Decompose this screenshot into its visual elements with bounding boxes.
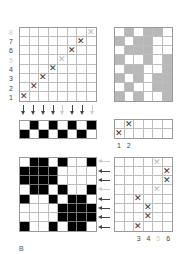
figure-label: B [19, 245, 24, 252]
grid-cell [153, 129, 163, 138]
grid-cell [39, 28, 49, 37]
grid-cell [87, 204, 97, 213]
grid-cell [20, 74, 30, 83]
grid-cell [87, 83, 97, 92]
grid-cell [134, 204, 144, 213]
grid-cell: ✕ [68, 46, 78, 55]
grid-cell: ✕ [125, 120, 135, 129]
grid-cell [87, 158, 97, 167]
grid-cell [163, 55, 173, 64]
grid-cell [115, 213, 125, 222]
grid-cell [87, 195, 97, 204]
grid-cell [77, 185, 87, 194]
grid-cell [58, 167, 68, 176]
grid-cell [49, 92, 59, 101]
grid-cell [49, 222, 59, 231]
grid-cell [153, 46, 163, 55]
grid-cell [144, 158, 154, 167]
grid-cell [153, 74, 163, 83]
grid-cell [153, 55, 163, 64]
grid-cell [58, 28, 68, 37]
grid-cell [125, 195, 135, 204]
grid-cell [58, 222, 68, 231]
grid-cell [39, 130, 49, 139]
grid-cell [163, 129, 173, 138]
threading-grid: ✕✕✕✕✕✕✕✕ [19, 27, 97, 102]
grid-cell [115, 37, 125, 46]
grid-cell [77, 46, 87, 55]
grid-cell [144, 176, 154, 185]
grid-cell [115, 222, 125, 231]
grid-cell: ✕ [20, 92, 30, 101]
grid-cell [87, 37, 97, 46]
column-label: 6 [166, 235, 170, 242]
grid-cell: ✕ [30, 83, 40, 92]
grid-cell [20, 176, 30, 185]
grid-cell [115, 65, 125, 74]
grid-cell [87, 185, 97, 194]
grid-cell [87, 74, 97, 83]
grid-cell [20, 28, 30, 37]
grid-cell [58, 74, 68, 83]
grid-cell [58, 92, 68, 101]
grid-cell [39, 176, 49, 185]
grid-cell [68, 130, 78, 139]
grid-cell [68, 74, 78, 83]
grid-cell: ✕ [87, 28, 97, 37]
grid-cell [20, 46, 30, 55]
grid-cell [68, 121, 78, 130]
grid-cell [163, 213, 173, 222]
grid-cell [134, 55, 144, 64]
grid-cell [58, 185, 68, 194]
grid-cell [153, 28, 163, 37]
grid-cell [134, 46, 144, 55]
grid-cell [30, 65, 40, 74]
grid-cell [125, 28, 135, 37]
grid-cell: ✕ [58, 55, 68, 64]
grid-cell [30, 176, 40, 185]
cross-mark-icon: ✕ [68, 46, 77, 54]
grid-cell [134, 83, 144, 92]
grid-cell [68, 167, 78, 176]
grid-cell [20, 195, 30, 204]
grid-cell [163, 65, 173, 74]
grid-cell [30, 213, 40, 222]
grid-cell [39, 121, 49, 130]
grid-cell [134, 28, 144, 37]
grid-cell [153, 195, 163, 204]
grid-cell [77, 83, 87, 92]
grid-cell [87, 213, 97, 222]
grid-cell [134, 167, 144, 176]
grid-cell [49, 185, 59, 194]
grid-cell [153, 167, 163, 176]
grid-cell [77, 121, 87, 130]
grid-cell [30, 46, 40, 55]
grid-cell [49, 158, 59, 167]
grid-cell [30, 28, 40, 37]
grid-cell [153, 222, 163, 231]
grid-cell [125, 222, 135, 231]
grid-cell [39, 213, 49, 222]
grid-cell: ✕ [39, 74, 49, 83]
grid-cell [163, 204, 173, 213]
grid-cell [125, 55, 135, 64]
grid-cell [39, 55, 49, 64]
grid-cell [49, 176, 59, 185]
grid-cell [87, 121, 97, 130]
grid-cell [144, 74, 154, 83]
grid-cell [77, 65, 87, 74]
grid-cell [125, 65, 135, 74]
grid-cell [115, 46, 125, 55]
grid-cell [49, 74, 59, 83]
cross-mark-icon: ✕ [77, 37, 86, 45]
grid-cell [115, 28, 125, 37]
grid-cell [49, 130, 59, 139]
grid-cell [115, 167, 125, 176]
grid-cell [20, 37, 30, 46]
grid-cell [58, 204, 68, 213]
grid-cell [30, 167, 40, 176]
grid-cell [58, 176, 68, 185]
grid-cell [115, 195, 125, 204]
grid-cell: ✕ [144, 213, 154, 222]
cross-mark-icon: ✕ [49, 65, 58, 73]
